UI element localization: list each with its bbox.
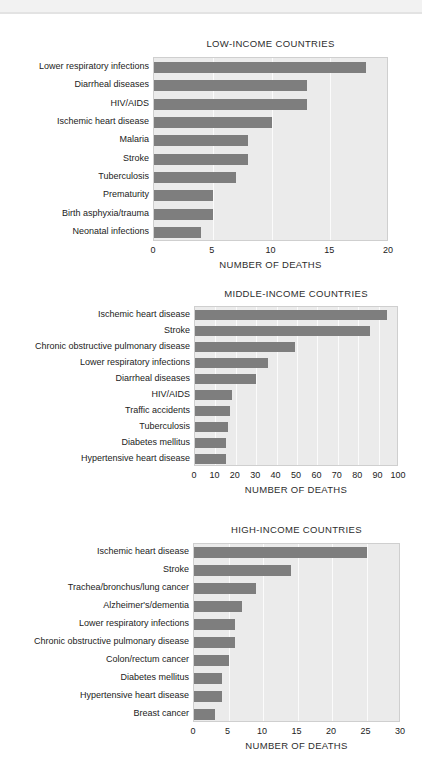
bar: [194, 637, 235, 648]
bar: [194, 673, 222, 684]
chart-3: HIGH-INCOME COUNTRIESIschemic heart dise…: [0, 0, 422, 776]
x-tick-label: 25: [352, 726, 380, 736]
category-label: Diabetes mellitus: [0, 672, 189, 683]
gridline: [298, 544, 299, 721]
bar: [194, 583, 256, 594]
category-label: Hypertensive heart disease: [0, 690, 189, 701]
x-tick-label: 15: [283, 726, 311, 736]
bar: [194, 655, 229, 666]
category-label: Stroke: [0, 564, 189, 575]
bar: [194, 547, 367, 558]
x-tick-label: 5: [214, 726, 242, 736]
x-tick-label: 30: [386, 726, 414, 736]
category-label: Trachea/bronchus/lung cancer: [0, 582, 189, 593]
gridline: [332, 544, 333, 721]
category-label: Ischemic heart disease: [0, 546, 189, 557]
x-axis-label: NUMBER OF DEATHS: [143, 740, 422, 751]
bar: [194, 565, 291, 576]
x-tick-label: 10: [248, 726, 276, 736]
gridline: [367, 544, 368, 721]
x-tick-label: 20: [317, 726, 345, 736]
category-label: Alzheimer's/dementia: [0, 600, 189, 611]
chart-title: HIGH-INCOME COUNTRIES: [133, 524, 422, 535]
plot-area: [193, 543, 400, 722]
figure-three-bar-charts: LOW-INCOME COUNTRIESLower respiratory in…: [0, 0, 422, 776]
category-label: Lower respiratory infections: [0, 618, 189, 629]
x-tick-label: 0: [179, 726, 207, 736]
bar: [194, 709, 215, 720]
category-label: Breast cancer: [0, 708, 189, 719]
bar: [194, 691, 222, 702]
category-label: Colon/rectum cancer: [0, 654, 189, 665]
category-label: Chronic obstructive pulmonary disease: [0, 636, 189, 647]
bar: [194, 601, 242, 612]
bar: [194, 619, 235, 630]
